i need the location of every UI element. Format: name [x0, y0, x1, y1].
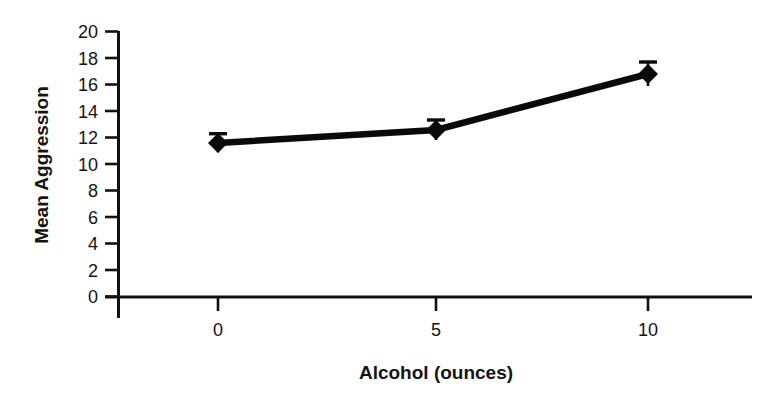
- x-tick-label: 5: [431, 320, 441, 340]
- y-tick-label: 4: [88, 234, 98, 254]
- y-tick-label: 8: [88, 181, 98, 201]
- chart-background: [0, 0, 775, 405]
- y-tick-label: 14: [78, 102, 98, 122]
- line-chart: 20 18 16 14 12 10 8 6 4 2 0 0 5 10: [0, 0, 775, 405]
- y-tick-label: 6: [88, 208, 98, 228]
- y-tick-label: 16: [78, 75, 98, 95]
- x-axis-title: Alcohol (ounces): [359, 362, 513, 383]
- x-tick-label: 10: [638, 320, 658, 340]
- y-tick-label: 18: [78, 49, 98, 69]
- chart-figure: 20 18 16 14 12 10 8 6 4 2 0 0 5 10: [0, 0, 775, 405]
- y-tick-label: 12: [78, 128, 98, 148]
- y-tick-label: 10: [78, 155, 98, 175]
- y-axis-title: Mean Aggression: [31, 86, 52, 244]
- x-tick-label: 0: [213, 320, 223, 340]
- y-tick-label: 2: [88, 261, 98, 281]
- y-tick-label: 0: [88, 287, 98, 307]
- y-tick-label: 20: [78, 22, 98, 42]
